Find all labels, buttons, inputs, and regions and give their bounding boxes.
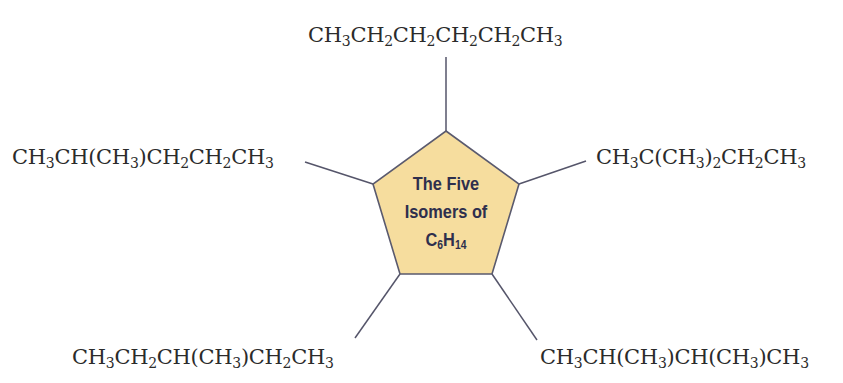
title-line-1: The Five: [386, 170, 506, 198]
title-formula: C6H14: [386, 226, 506, 254]
isomer-right-2-2-dimethylbutane: CH3C(CH3)2CH2CH3: [596, 147, 806, 168]
isomer-bottom-right-2-3-dimethylbutane: CH3CH(CH3)CH(CH3)CH3: [540, 347, 809, 368]
diagram-title: The Five Isomers of C6H14: [386, 170, 506, 254]
connector-bottom-left: [355, 274, 400, 338]
isomer-left-2-methylpentane: CH3CH(CH3)CH2CH2CH3: [12, 147, 274, 168]
connector-right: [519, 161, 586, 184]
formula-h-sub: 14: [455, 238, 466, 252]
isomer-top-hexane: CH3CH2CH2CH2CH2CH3: [308, 25, 562, 46]
title-line-2: Isomers of: [386, 198, 506, 226]
connector-left: [305, 162, 373, 184]
formula-c: C: [426, 229, 438, 250]
formula-h: H: [443, 229, 455, 250]
isomer-diagram: The Five Isomers of C6H14 CH3CH2CH2CH2CH…: [0, 0, 843, 383]
isomer-bottom-left-3-methylpentane: CH3CH2CH(CH3)CH2CH3: [72, 347, 334, 368]
connector-bottom-right: [492, 274, 537, 340]
